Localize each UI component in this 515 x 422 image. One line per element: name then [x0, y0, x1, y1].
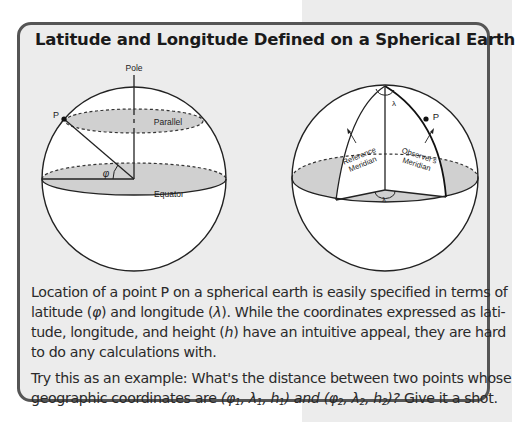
latitude-symbol: φ — [103, 168, 110, 179]
point-p-label-left: P — [53, 110, 59, 120]
lambda-bottom-label: λ — [382, 195, 386, 204]
phi-symbol: φ — [92, 304, 101, 320]
h-symbol: h — [225, 324, 234, 340]
paragraph1-line4: to do any calculations with. — [31, 342, 486, 362]
paragraph2-line1: Try this as an example: What's the dista… — [31, 368, 486, 388]
paragraph1-line1: Location of a point P on a spherical ear… — [31, 282, 486, 302]
description-paragraph: Location of a point P on a spherical ear… — [31, 282, 486, 362]
lambda-top-label: λ — [392, 99, 396, 108]
paragraph1-line2: latitude (φ) and longitude (λ). While th… — [31, 302, 486, 322]
point-p-label-right: P — [433, 111, 439, 122]
pole-label: Pole — [125, 63, 142, 73]
paragraph2-line2: geographic coordinates are (φ1, λ1, h1) … — [31, 388, 486, 408]
equator-label: Equator — [154, 189, 184, 199]
right-sphere-figure: λ P Reference Meridian Observer's Meridi… — [292, 85, 478, 271]
example-paragraph: Try this as an example: What's the dista… — [31, 368, 486, 408]
parallel-label: Parallel — [154, 117, 182, 127]
coordinate-expression: (φ1, λ1, h1) and (φ2, λ2, h2)? — [221, 390, 400, 406]
left-sphere-figure: Pole P Parallel φ Equator — [42, 63, 226, 271]
paragraph1-line3: tude, longitude, and height (h) have an … — [31, 322, 486, 342]
